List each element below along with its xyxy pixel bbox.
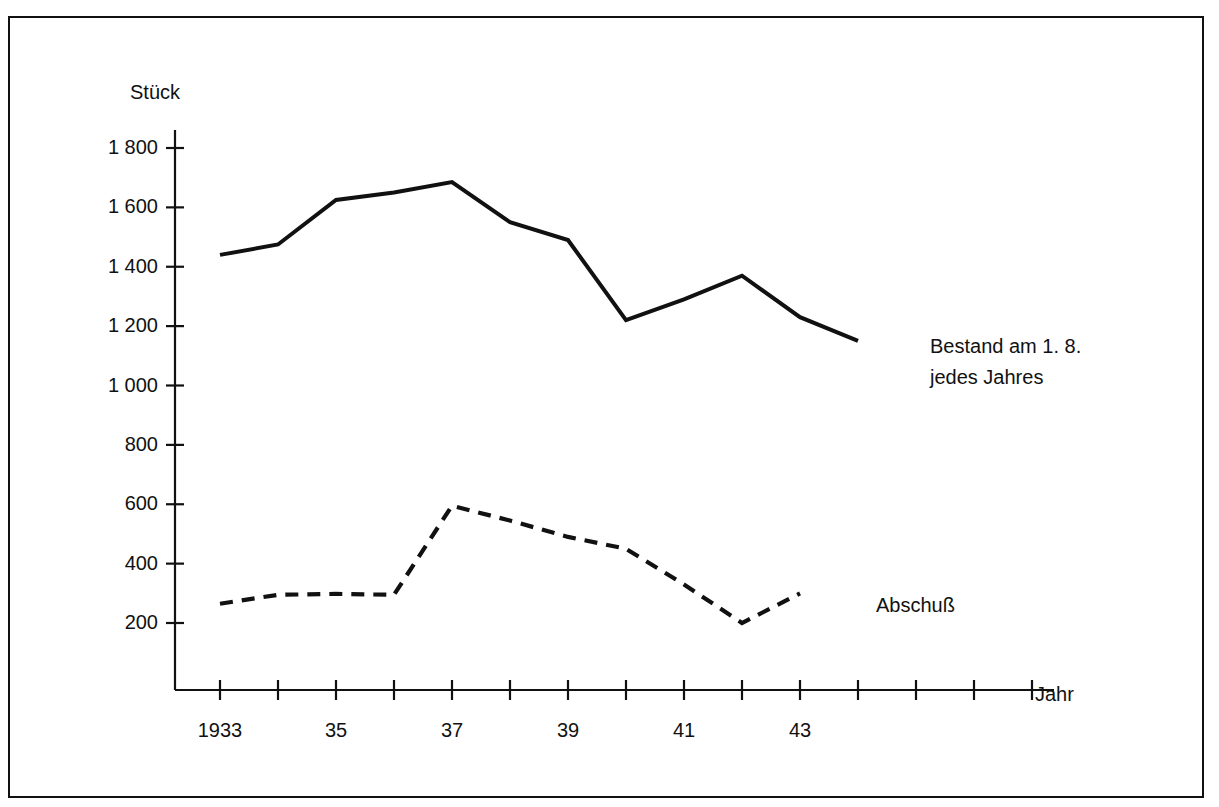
- y-tick-label: 1 600: [48, 194, 158, 219]
- x-tick-label: 41: [639, 718, 729, 743]
- x-tick-label: 37: [407, 718, 497, 743]
- y-tick-label: 1 200: [48, 313, 158, 338]
- series-label-bestand-line1: Bestand am 1. 8.: [930, 334, 1081, 359]
- x-tick-label: 35: [291, 718, 381, 743]
- y-tick-label: 400: [48, 551, 158, 576]
- y-tick-label: 800: [48, 432, 158, 457]
- x-tick-label: 43: [755, 718, 845, 743]
- y-axis-unit-label: Stück: [130, 80, 180, 105]
- x-axis-name-label: Jahr: [1035, 682, 1074, 707]
- y-tick-label: 1 000: [48, 373, 158, 398]
- series-line-1: [220, 506, 800, 623]
- chart-page: Stück Jahr Bestand am 1. 8. jedes Jahres…: [0, 0, 1219, 807]
- y-tick-label: 200: [48, 610, 158, 635]
- x-tick-label: 1933: [175, 718, 265, 743]
- y-tick-label: 600: [48, 491, 158, 516]
- x-tick-label: 39: [523, 718, 613, 743]
- series-label-bestand-line2: jedes Jahres: [930, 365, 1043, 390]
- series-line-0: [220, 182, 858, 341]
- y-tick-label: 1 800: [48, 135, 158, 160]
- y-tick-label: 1 400: [48, 254, 158, 279]
- data-series-group: [220, 182, 858, 623]
- series-label-abschuss: Abschuß: [876, 593, 955, 618]
